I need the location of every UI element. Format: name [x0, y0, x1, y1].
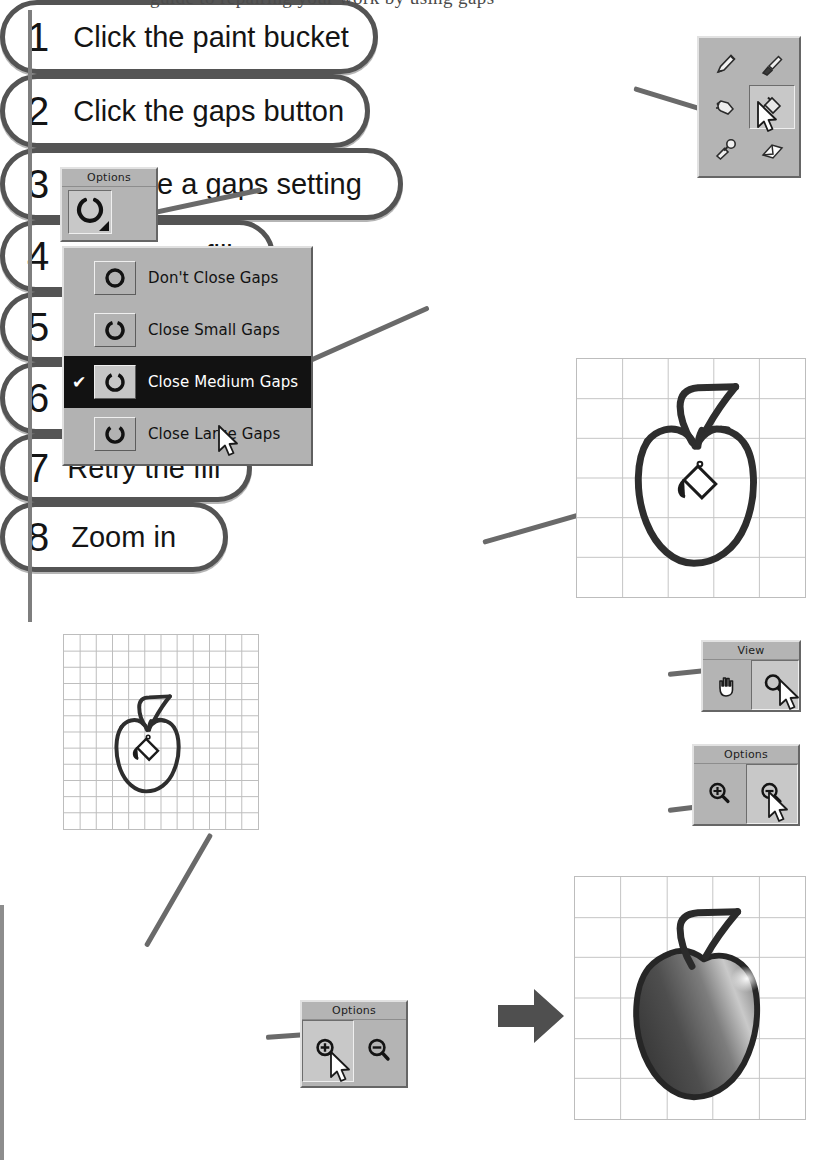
magnifier-plus-icon: [705, 779, 735, 809]
eyedropper-icon: [711, 135, 741, 165]
zoom-out-button[interactable]: [354, 1020, 406, 1082]
hand-tool[interactable]: [703, 660, 751, 710]
paintbrush-tool[interactable]: [749, 42, 795, 85]
small-gap-circle-icon-wrap: [94, 313, 136, 347]
closed-circle-icon-wrap: [94, 261, 136, 295]
canvas-result-content: [575, 877, 805, 1119]
gaps-dropdown-menu[interactable]: Don't Close Gaps Close Small Gaps ✔ Clos…: [62, 246, 313, 466]
apple-filled: [636, 951, 763, 1097]
menu-item-close-medium-gaps[interactable]: ✔ Close Medium Gaps: [64, 356, 311, 408]
options-panel-zoom-in[interactable]: Options: [300, 1000, 408, 1088]
airbrush-icon: [711, 92, 741, 122]
page-top-text-fragment: guide to repairing your work by using ga…: [0, 0, 831, 14]
large-gap-circle-icon: [103, 422, 127, 446]
arrow-cursor: [777, 678, 803, 714]
closed-circle-icon: [103, 266, 127, 290]
small-gap-circle-icon: [103, 318, 127, 342]
options-panel-zoom-in-title: Options: [302, 1002, 406, 1020]
eraser-icon: [757, 135, 787, 165]
leader-line-step-3: [309, 305, 430, 362]
magnifier-minus-icon: [364, 1035, 396, 1067]
left-margin-rule-lower: [0, 905, 4, 1160]
arrow-cursor: [766, 790, 792, 826]
result-arrow-icon: [496, 985, 566, 1047]
options-panel-zoom-out-title: Options: [694, 746, 798, 764]
left-margin-rule: [28, 10, 32, 622]
menu-check-2: ✔: [64, 374, 94, 391]
options-panel-zoom-out[interactable]: Options: [692, 744, 800, 826]
view-panel[interactable]: View: [701, 640, 801, 712]
medium-gap-circle-icon-wrap: [94, 365, 136, 399]
large-gap-circle-icon-wrap: [94, 417, 136, 451]
callout-step-2: 2 Click the gaps button: [0, 74, 370, 148]
gaps-button[interactable]: [68, 190, 112, 234]
paint-bucket-cursor: [679, 462, 715, 498]
menu-item-close-small-gaps[interactable]: Close Small Gaps: [64, 304, 311, 356]
eyedropper-tool[interactable]: [703, 129, 749, 172]
canvas-zoomed-out-content: [64, 635, 258, 829]
menu-label-3: Close Large Gaps: [148, 425, 280, 443]
callout-step-8: 8 Zoom in: [0, 502, 228, 572]
canvas-result[interactable]: [574, 876, 806, 1120]
pencil-tool[interactable]: [703, 42, 749, 85]
menu-label-1: Close Small Gaps: [148, 321, 280, 339]
paint-bucket-cursor: [134, 735, 158, 760]
arrow-cursor: [755, 100, 781, 136]
leader-line-step-7: [144, 833, 213, 948]
canvas-attempt-fill-content: [577, 359, 805, 597]
callout-step-1-text: Click the paint bucket: [73, 23, 349, 52]
callout-step-8-text: Zoom in: [71, 523, 176, 552]
options-panel-gaps[interactable]: Options: [60, 167, 158, 242]
callout-step-2-text: Click the gaps button: [73, 97, 344, 126]
paintbrush-icon: [757, 49, 787, 79]
menu-item-dont-close-gaps[interactable]: Don't Close Gaps: [64, 252, 311, 304]
tool-palette[interactable]: [697, 36, 801, 178]
arrow-cursor: [328, 1050, 354, 1086]
view-panel-title: View: [703, 642, 799, 660]
hand-icon: [713, 671, 741, 699]
pencil-icon: [711, 49, 741, 79]
dropdown-triangle-icon: [98, 220, 110, 232]
menu-label-2: Close Medium Gaps: [148, 373, 298, 391]
arrow-cursor: [216, 424, 242, 460]
menu-item-close-large-gaps[interactable]: Close Large Gaps: [64, 408, 311, 460]
canvas-attempt-fill[interactable]: [576, 358, 806, 598]
canvas-grid: [64, 635, 258, 829]
menu-label-0: Don't Close Gaps: [148, 269, 278, 287]
airbrush-tool[interactable]: [703, 85, 749, 128]
canvas-zoomed-out[interactable]: [63, 634, 259, 830]
options-panel-gaps-title: Options: [62, 169, 156, 187]
medium-gap-circle-icon: [103, 370, 127, 394]
zoom-in-button[interactable]: [694, 764, 746, 824]
